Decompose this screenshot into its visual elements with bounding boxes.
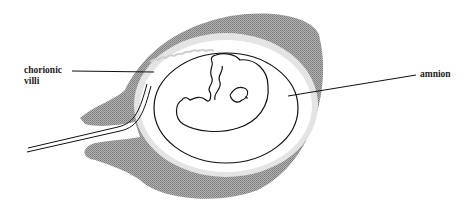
amnion-label: amnion xyxy=(420,69,451,80)
diagram-canvas xyxy=(0,0,474,211)
chorionic-label-line1: chorionic xyxy=(24,65,62,76)
villi-label-line2: villi xyxy=(24,76,62,87)
chorionic-villi-label: chorionic villi xyxy=(24,65,62,87)
embryo-diagram: chorionic villi amnion xyxy=(0,0,474,211)
